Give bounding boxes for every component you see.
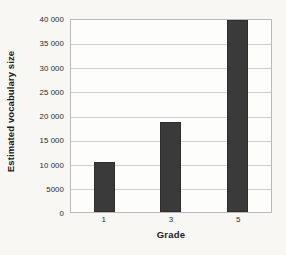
y-tick-label: 10 000 bbox=[40, 160, 64, 169]
x-tick-label: 1 bbox=[93, 215, 114, 224]
x-axis-tick-labels: 1 3 5 bbox=[70, 215, 272, 229]
y-tick-label: 30 000 bbox=[40, 63, 64, 72]
bar-grade-1[interactable] bbox=[94, 162, 115, 212]
y-axis-title: Estimated vocabulary size bbox=[0, 0, 22, 222]
bars-layer bbox=[71, 20, 271, 212]
x-axis-title: Grade bbox=[70, 229, 272, 240]
y-axis-tick-labels: 0 5000 10 000 15 000 20 000 25 000 30 00… bbox=[22, 19, 68, 213]
y-axis-title-text: Estimated vocabulary size bbox=[6, 50, 17, 171]
x-tick-label: 5 bbox=[228, 215, 249, 224]
y-tick-label: 5000 bbox=[46, 184, 64, 193]
bar-grade-5[interactable] bbox=[227, 20, 248, 212]
y-tick-label: 20 000 bbox=[40, 112, 64, 121]
y-tick-label: 40 000 bbox=[40, 15, 64, 24]
y-tick-label: 35 000 bbox=[40, 39, 64, 48]
bar-chart-figure: Estimated vocabulary size 0 5000 10 000 … bbox=[0, 0, 286, 255]
x-tick-label: 3 bbox=[160, 215, 181, 224]
bar-grade-3[interactable] bbox=[160, 122, 181, 212]
y-tick-label: 25 000 bbox=[40, 87, 64, 96]
plot-area bbox=[70, 19, 272, 213]
y-tick-label: 15 000 bbox=[40, 136, 64, 145]
y-tick-label: 0 bbox=[60, 209, 64, 218]
